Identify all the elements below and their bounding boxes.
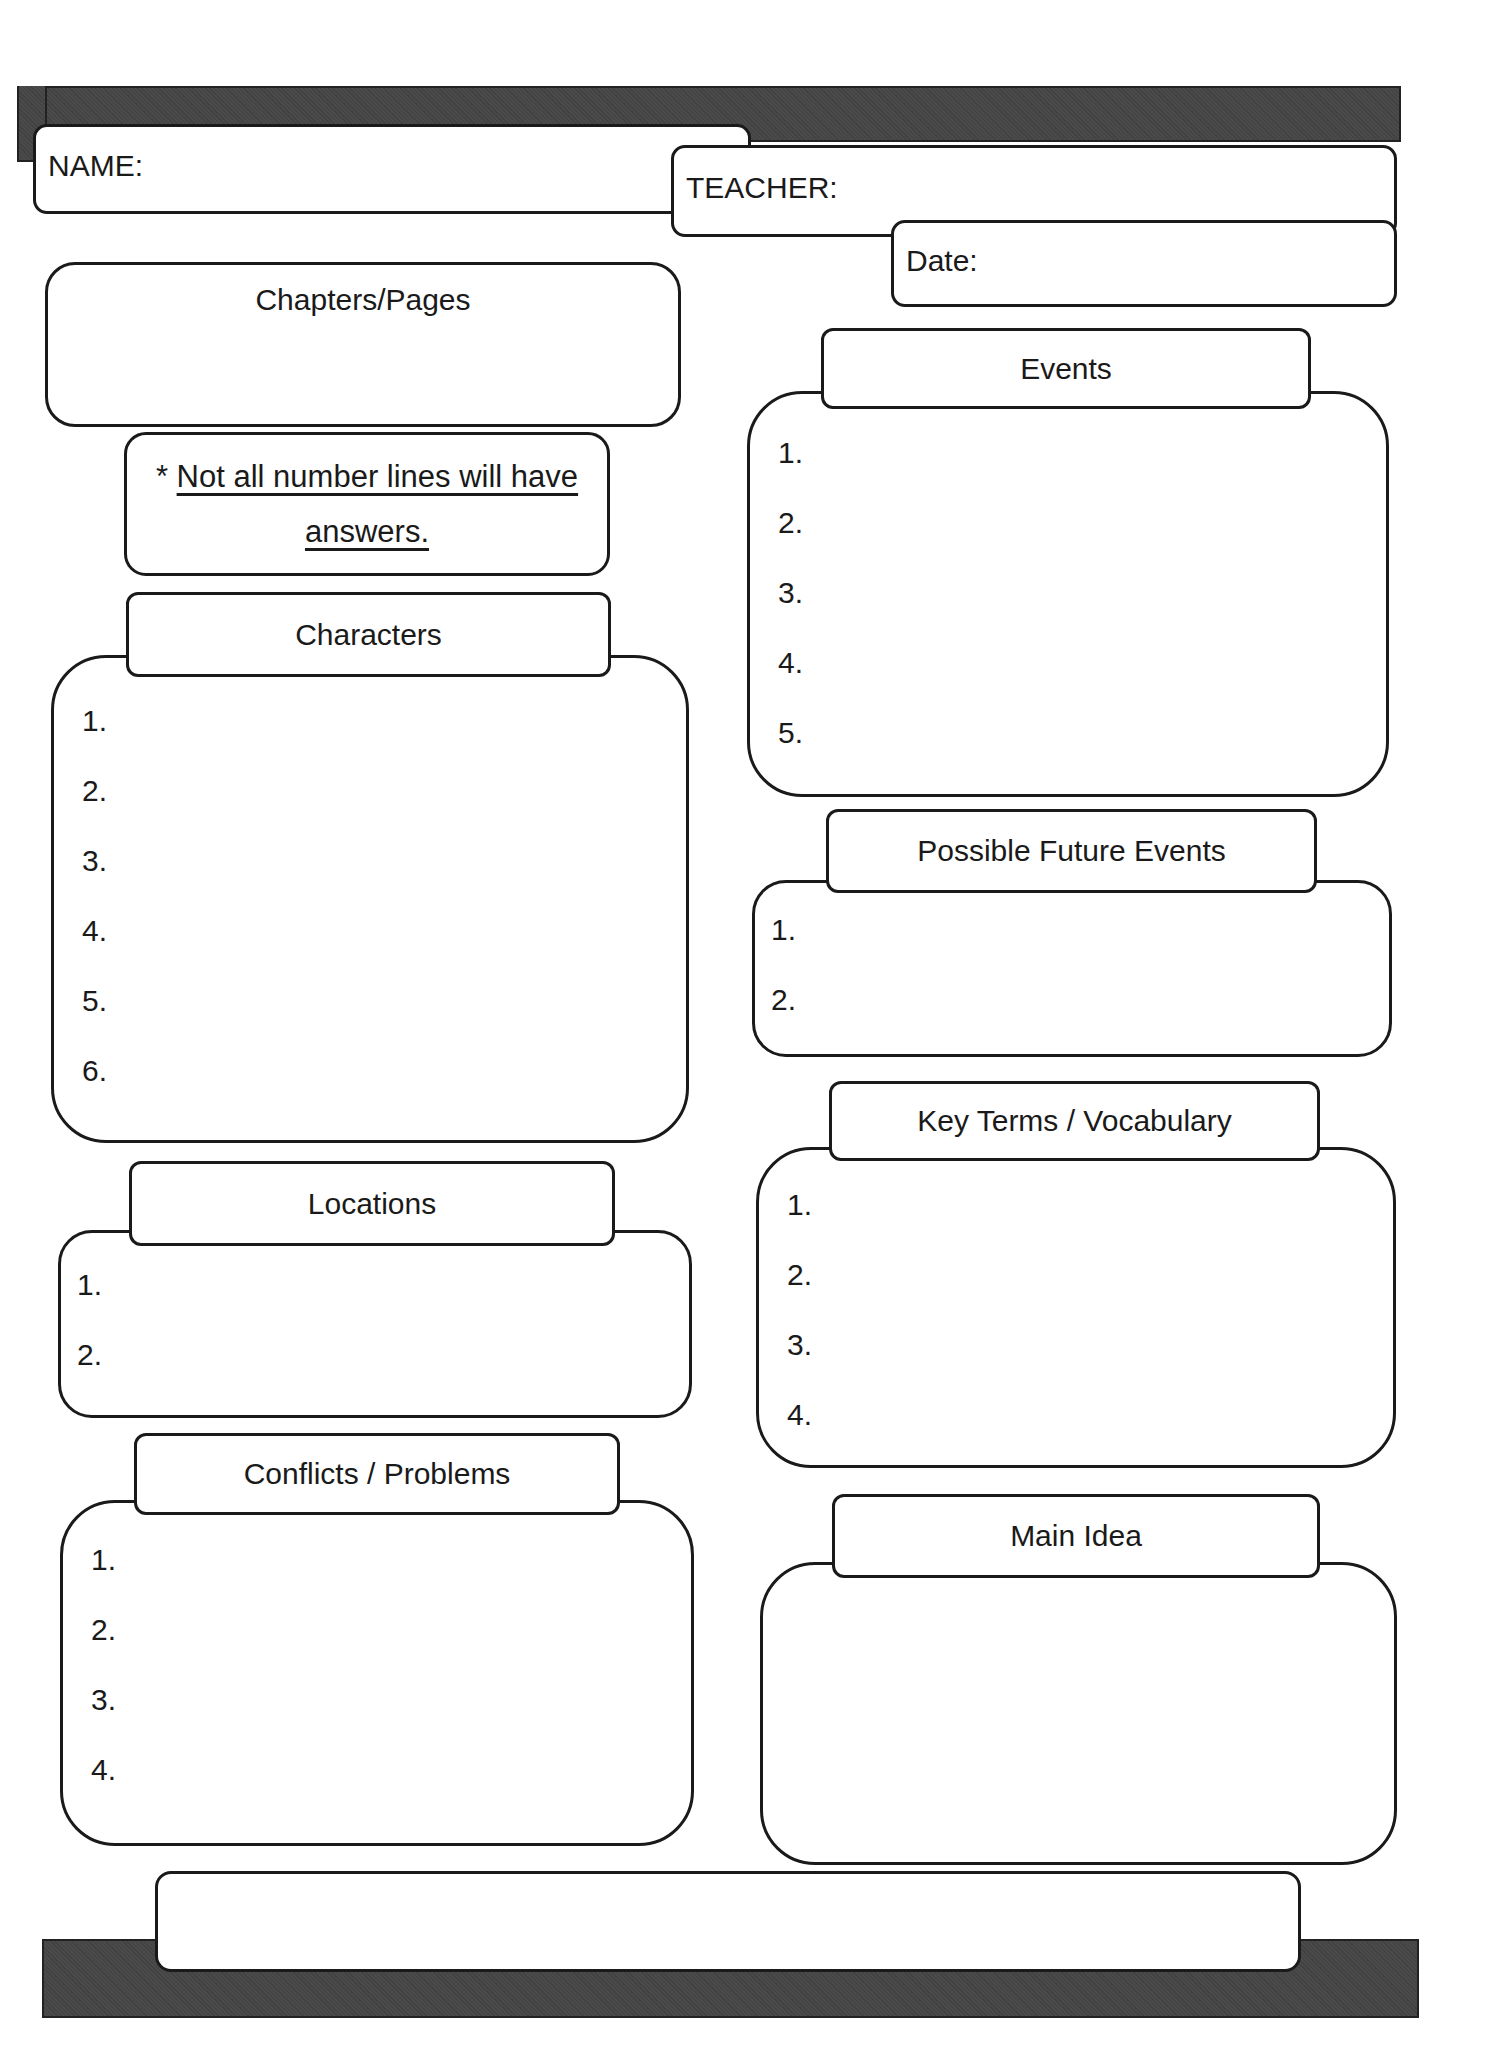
list-item: 5.: [82, 984, 107, 1018]
events-box[interactable]: 1. 2. 3. 4. 5.: [747, 391, 1389, 797]
key-terms-box[interactable]: 1. 2. 3. 4.: [756, 1147, 1396, 1468]
name-field[interactable]: NAME:: [33, 124, 751, 214]
list-item: 2.: [77, 1338, 102, 1372]
list-item: 2.: [82, 774, 107, 808]
list-item: 6.: [82, 1054, 107, 1088]
list-item: 3.: [787, 1328, 812, 1362]
list-item: 1.: [771, 913, 796, 947]
locations-title: Locations: [308, 1187, 436, 1221]
future-events-header: Possible Future Events: [826, 809, 1317, 893]
list-item: 1.: [91, 1543, 116, 1577]
future-events-box[interactable]: 1. 2.: [752, 880, 1392, 1057]
list-item: 1.: [82, 704, 107, 738]
date-field[interactable]: Date:: [891, 220, 1397, 307]
note-asterisk: *: [156, 459, 168, 494]
list-item: 3.: [82, 844, 107, 878]
chapters-pages-title: Chapters/Pages: [48, 283, 678, 317]
locations-box[interactable]: 1. 2.: [58, 1230, 692, 1418]
list-item: 2.: [787, 1258, 812, 1292]
teacher-label: TEACHER:: [686, 171, 838, 205]
events-header: Events: [821, 328, 1311, 409]
list-item: 1.: [778, 436, 803, 470]
list-item: 5.: [778, 716, 803, 750]
locations-header: Locations: [129, 1161, 615, 1246]
events-title: Events: [1020, 352, 1112, 386]
name-label: NAME:: [48, 149, 143, 183]
date-label: Date:: [906, 243, 978, 277]
main-idea-box[interactable]: [760, 1562, 1397, 1865]
list-item: 2.: [771, 983, 796, 1017]
list-item: 4.: [91, 1753, 116, 1787]
list-item: 3.: [778, 576, 803, 610]
main-idea-title: Main Idea: [1010, 1519, 1142, 1553]
footer-field[interactable]: [155, 1871, 1301, 1972]
main-idea-header: Main Idea: [832, 1494, 1320, 1578]
conflicts-header: Conflicts / Problems: [134, 1433, 620, 1515]
note-line-1: Not all number lines will have: [177, 459, 578, 494]
note-line-2: answers.: [305, 514, 429, 549]
future-events-title: Possible Future Events: [917, 834, 1225, 868]
list-item: 4.: [778, 646, 803, 680]
list-item: 1.: [787, 1188, 812, 1222]
list-item: 2.: [91, 1613, 116, 1647]
characters-title: Characters: [295, 618, 442, 652]
key-terms-header: Key Terms / Vocabulary: [829, 1081, 1320, 1161]
key-terms-title: Key Terms / Vocabulary: [917, 1104, 1232, 1138]
chapters-pages-box[interactable]: Chapters/Pages: [45, 262, 681, 427]
list-item: 1.: [77, 1268, 102, 1302]
conflicts-box[interactable]: 1. 2. 3. 4.: [60, 1500, 694, 1846]
list-item: 4.: [787, 1398, 812, 1432]
characters-header: Characters: [126, 592, 611, 677]
list-item: 2.: [778, 506, 803, 540]
conflicts-title: Conflicts / Problems: [244, 1457, 511, 1491]
list-item: 4.: [82, 914, 107, 948]
characters-box[interactable]: 1. 2. 3. 4. 5. 6.: [51, 655, 689, 1143]
list-item: 3.: [91, 1683, 116, 1717]
instruction-note: * Not all number lines will have answers…: [124, 432, 610, 576]
